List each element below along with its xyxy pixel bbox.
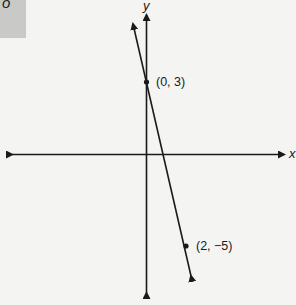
point-2-neg5 bbox=[183, 243, 188, 248]
x-axis-label: x bbox=[289, 146, 296, 161]
y-axis-label: y bbox=[143, 0, 150, 13]
point-0-3 bbox=[144, 79, 149, 84]
point-label-0-3: (0, 3) bbox=[156, 75, 185, 89]
point-label-2-neg5: (2, −5) bbox=[196, 239, 232, 253]
coordinate-plane bbox=[0, 0, 296, 305]
graphed-line bbox=[133, 24, 191, 276]
